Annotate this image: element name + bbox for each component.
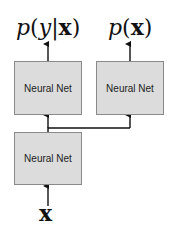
output-marginal-label: p(x) [108,14,152,40]
x-symbol: x [59,14,72,40]
close-paren: ) [144,15,153,40]
input-label: x [39,200,52,226]
box-label: Neural Net [24,83,72,94]
neural-net-box-density: Neural Net [96,61,164,115]
y-symbol: y [39,15,51,40]
output-conditional-label: p(y|x) [16,14,80,40]
open-paren: ( [122,15,131,40]
box-label: Neural Net [106,83,154,94]
x-symbol: x [39,200,52,226]
open-paren: ( [30,15,39,40]
p-symbol: p [108,15,122,40]
given-bar: | [51,15,58,40]
p-symbol: p [16,15,30,40]
neural-net-box-shared: Neural Net [14,132,82,185]
x-symbol: x [131,14,144,40]
neural-net-box-classifier: Neural Net [14,61,82,115]
close-paren: ) [72,15,81,40]
box-label: Neural Net [24,153,72,164]
